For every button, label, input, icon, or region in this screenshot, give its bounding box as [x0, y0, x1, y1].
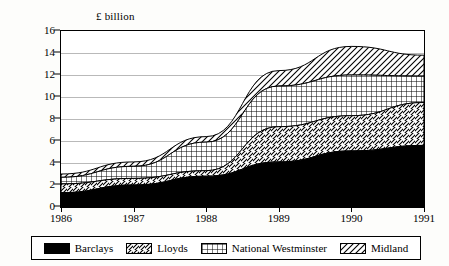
- y-tick-label: 14: [1, 46, 60, 58]
- x-tick-label: 1990: [340, 212, 362, 224]
- legend-swatch: [44, 243, 70, 254]
- y-tick-label: 12: [1, 68, 60, 80]
- legend-swatch: [126, 243, 152, 254]
- plot-area: [60, 30, 425, 208]
- y-tick-label: 4: [1, 156, 60, 168]
- y-axis-label: £ billion: [96, 10, 135, 22]
- legend-label: Lloyds: [157, 242, 188, 254]
- legend-item: Midland: [340, 242, 408, 254]
- legend-label: Midland: [371, 242, 408, 254]
- legend-swatch: [340, 243, 366, 254]
- x-tick-label: 1988: [195, 212, 217, 224]
- legend-item: Lloyds: [126, 242, 188, 254]
- legend-label: Barclays: [75, 242, 113, 254]
- y-tick-label: 16: [1, 24, 60, 36]
- x-tick-label: 1987: [123, 212, 145, 224]
- legend-item: National Westminster: [201, 242, 327, 254]
- x-tick-label: 1989: [268, 212, 290, 224]
- legend-swatch: [201, 243, 227, 254]
- legend-item: Barclays: [44, 242, 113, 254]
- y-tick-label: 6: [1, 134, 60, 146]
- y-tick-label: 2: [1, 178, 60, 190]
- x-axis-ticks: 198619871988198919901991: [60, 208, 425, 230]
- chart-container: £ billion 0246810121416 1986198: [0, 0, 449, 266]
- x-tick-label: 1986: [50, 212, 72, 224]
- y-tick-label: 10: [1, 90, 60, 102]
- stacked-area-series: [61, 31, 424, 207]
- y-tick-label: 8: [1, 112, 60, 124]
- chart-legend: BarclaysLloydsNational WestminsterMidlan…: [31, 236, 421, 260]
- y-axis-ticks: 0246810121416: [0, 30, 60, 208]
- y-tick-label: 0: [1, 200, 60, 212]
- x-tick-label: 1991: [413, 212, 435, 224]
- legend-label: National Westminster: [232, 242, 327, 254]
